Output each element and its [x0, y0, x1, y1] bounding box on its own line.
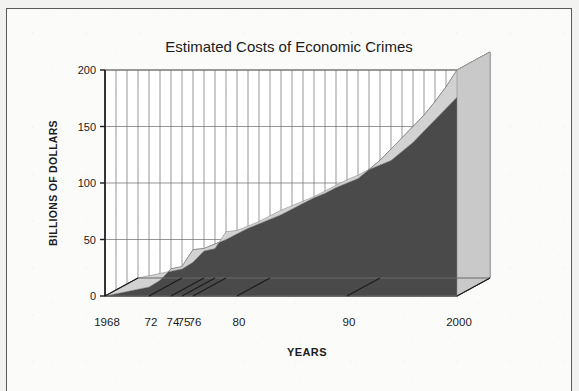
y-axis-title: BILLIONS OF DOLLARS	[47, 120, 59, 246]
y-tick-label: 50	[84, 234, 96, 246]
y-axis: 050100150200	[78, 64, 105, 302]
x-tick-label: 72	[145, 316, 158, 328]
chart-title: Estimated Costs of Economic Crimes	[165, 38, 413, 55]
x-tick-label: 76	[189, 316, 202, 328]
x-tick-label: 1968	[94, 316, 120, 328]
y-tick-label: 0	[90, 290, 96, 302]
y-axis-tick-labels: 050100150200	[78, 64, 96, 302]
y-tick-label: 100	[78, 177, 96, 189]
x-tick-label: 2000	[446, 316, 472, 328]
x-tick-label: 80	[233, 316, 246, 328]
x-axis-title: YEARS	[287, 346, 327, 358]
y-tick-label: 200	[78, 64, 96, 76]
y-tick-label: 150	[78, 121, 96, 133]
area-series-right-face	[457, 52, 490, 296]
x-axis-tick-labels: 19687274757680902000	[94, 316, 472, 328]
x-tick-label: 90	[343, 316, 356, 328]
